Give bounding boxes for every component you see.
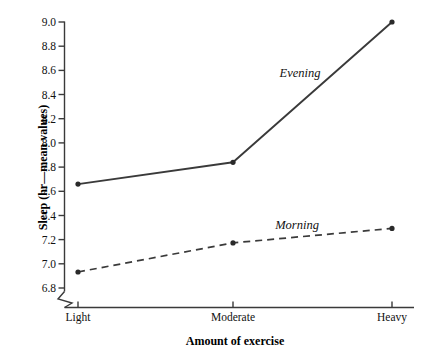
data-point	[75, 182, 80, 187]
series-markers-morning	[75, 226, 394, 275]
series-line-morning	[78, 228, 392, 272]
y-tick-label-8-6: 8.6	[18, 64, 56, 76]
line-chart: 6.8 7.0 7.2 7.4 7.6 7.8 8.0 8.2 8.4 8.6 …	[0, 0, 428, 356]
x-tick-label-light: Light	[66, 311, 91, 323]
chart-plot-area	[0, 0, 428, 356]
x-tick-label-moderate: Moderate	[211, 311, 255, 323]
data-point	[75, 269, 80, 274]
series-line-evening	[78, 22, 392, 184]
y-tick-label-6-8: 6.8	[18, 282, 56, 294]
data-point	[389, 226, 394, 231]
x-axis-title: Amount of exercise	[78, 334, 392, 349]
y-axis-ticks	[59, 22, 65, 288]
data-point	[230, 160, 235, 165]
axis-break-zigzag	[58, 292, 72, 308]
y-axis-title: Sleep (hr—mean values)	[36, 78, 51, 258]
data-point	[389, 19, 394, 24]
y-tick-label-8-8: 8.8	[18, 40, 56, 52]
series-markers-evening	[75, 19, 394, 186]
y-tick-label-7-0: 7.0	[18, 258, 56, 270]
series-label-morning: Morning	[275, 218, 319, 233]
data-point	[230, 240, 235, 245]
y-tick-label-9-0: 9.0	[18, 16, 56, 28]
x-axis-ticks	[78, 302, 392, 308]
x-tick-label-heavy: Heavy	[377, 311, 407, 323]
series-label-evening: Evening	[280, 66, 321, 81]
